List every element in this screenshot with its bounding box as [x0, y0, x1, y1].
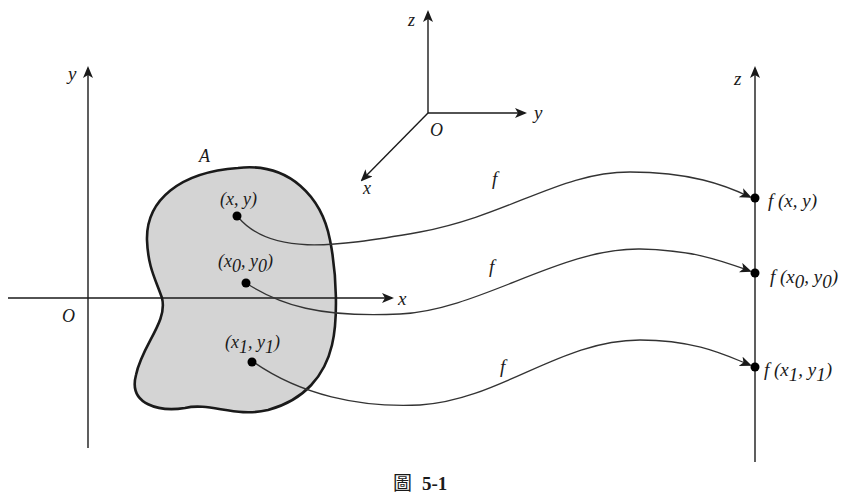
- image-xy-label: f (x, y): [768, 190, 817, 212]
- map-label-3: f: [500, 356, 508, 377]
- plane-y-label: y: [66, 63, 77, 84]
- point-xy: [233, 212, 242, 221]
- space-y-label: y: [532, 102, 543, 123]
- function-mapping-diagram: A y x O z y x O z f f f (x, y) (x0, y0) …: [0, 0, 853, 495]
- image-point-x0y0: [751, 269, 760, 278]
- image-x1y1-label: f (x1, y1): [764, 359, 832, 385]
- plane-origin-label: O: [62, 306, 75, 326]
- space-z-label: z: [407, 10, 415, 30]
- point-x0y0: [242, 279, 251, 288]
- space-x-axis: [362, 113, 428, 180]
- map-label-1: f: [492, 168, 500, 189]
- point-xy-label: (x, y): [220, 189, 257, 210]
- space-x-label: x: [362, 178, 371, 198]
- image-point-xy: [751, 194, 760, 203]
- region-label: A: [198, 146, 211, 166]
- figure-caption-prefix: 圖: [393, 472, 412, 494]
- figure-caption-number: 5-1: [422, 473, 447, 494]
- image-point-x1y1: [751, 363, 760, 372]
- image-x0y0-label: f (x0, y0): [770, 266, 838, 292]
- map-label-2: f: [489, 256, 497, 277]
- space-origin-label: O: [430, 120, 443, 140]
- point-x1y1: [248, 358, 257, 367]
- plane-x-label: x: [397, 288, 407, 309]
- z-axis-label: z: [733, 68, 742, 89]
